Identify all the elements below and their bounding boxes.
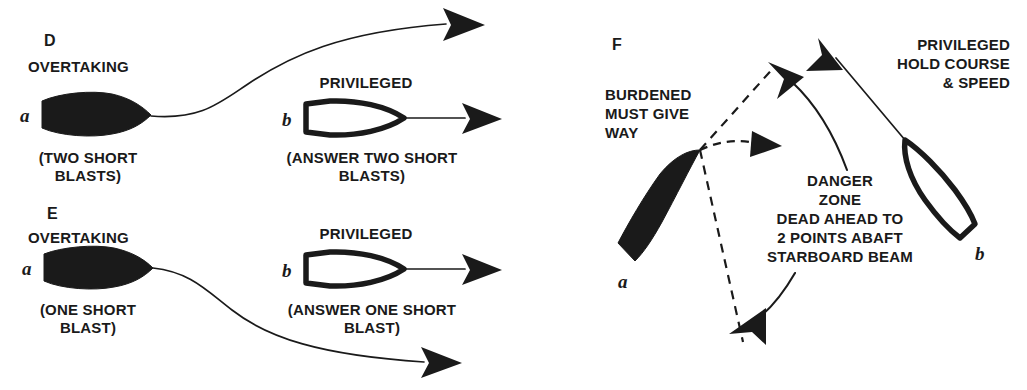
panel-f-privileged-line-2: HOLD COURSE	[897, 55, 1010, 72]
panel-e-overtaking-label: OVERTAKING	[28, 229, 129, 246]
panel-f-vessel-b-label: b	[975, 243, 985, 264]
panel-d-label: D	[44, 32, 56, 49]
panel-d-vessel-a-caption-1: (TWO SHORT	[39, 149, 138, 166]
panel-d-privileged-label: PRIVILEGED	[320, 74, 413, 91]
panel-f-burdened-line-3: WAY	[605, 124, 638, 141]
panel-e-vessel-a-caption-2: BLAST)	[60, 319, 116, 336]
panel-f-privileged-line-1: PRIVILEGED	[917, 36, 1010, 53]
panel-e-vessel-b-caption-1: (ANSWER ONE SHORT	[288, 301, 456, 318]
panel-d-vessel-b-caption-1: (ANSWER TWO SHORT	[287, 149, 458, 166]
panel-f-label: F	[612, 36, 622, 53]
panel-d-vessel-a-label: a	[20, 105, 30, 126]
panel-e-vessel-b-label: b	[282, 260, 292, 281]
panel-e-vessel-a-label: a	[22, 258, 32, 279]
panel-e-vessel-b-caption-2: BLAST)	[344, 319, 400, 336]
panel-d-vessel-a-caption-2: BLASTS)	[55, 167, 121, 184]
panel-f-privileged-line-3: & SPEED	[943, 74, 1010, 91]
panel-f-danger-line-4: 2 POINTS ABAFT	[777, 229, 903, 246]
panel-e-vessel-a-caption-1: (ONE SHORT	[40, 301, 136, 318]
panel-e-label: E	[47, 205, 58, 222]
panel-d-overtaking-label: OVERTAKING	[28, 58, 129, 75]
panel-f-burdened-line-2: MUST GIVE	[605, 105, 689, 122]
nautical-rules-diagram: D OVERTAKING a (TWO SHORT BLASTS) b PRIV…	[0, 0, 1027, 390]
diagram-canvas: D OVERTAKING a (TWO SHORT BLASTS) b PRIV…	[0, 0, 1027, 390]
panel-f-burdened-line-1: BURDENED	[605, 86, 692, 103]
panel-f-danger-line-1: DANGER	[807, 172, 873, 189]
panel-d-vessel-b-label: b	[282, 109, 292, 130]
panel-e-privileged-label: PRIVILEGED	[320, 225, 413, 242]
panel-d-vessel-b-caption-2: BLASTS)	[339, 167, 405, 184]
panel-f-danger-line-5: STARBOARD BEAM	[767, 248, 913, 265]
diagram-background	[0, 0, 1027, 390]
panel-f-danger-line-2: ZONE	[819, 191, 861, 208]
panel-f-danger-line-3: DEAD AHEAD TO	[777, 210, 904, 227]
panel-f-vessel-a-label: a	[618, 271, 628, 292]
